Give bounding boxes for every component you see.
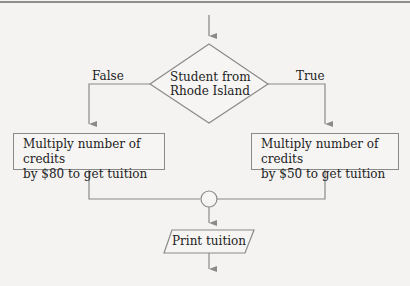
process-false-line2: by $80 to get tuition (23, 167, 155, 182)
process-true-line1: Multiply number of credits (261, 137, 389, 167)
process-true-line2: by $50 to get tuition (261, 167, 389, 182)
process-box-false: Multiply number of credits by $80 to get… (13, 133, 165, 170)
false-branch-arrow-icon (89, 84, 150, 124)
process-false-line1: Multiply number of credits (23, 137, 155, 167)
flowchart-canvas: Student from Rhode Island False True Mul… (0, 0, 410, 286)
false-branch-label: False (92, 69, 124, 83)
decision-line2: Rhode Island (170, 84, 248, 98)
true-branch-label: True (296, 69, 325, 83)
true-branch-arrow-icon (268, 84, 325, 124)
output-label: Print tuition (168, 234, 250, 248)
decision-line1: Student from (170, 70, 248, 84)
connector-circle (201, 191, 217, 207)
process-box-true: Multiply number of credits by $50 to get… (251, 133, 399, 170)
decision-label: Student from Rhode Island (170, 70, 248, 98)
